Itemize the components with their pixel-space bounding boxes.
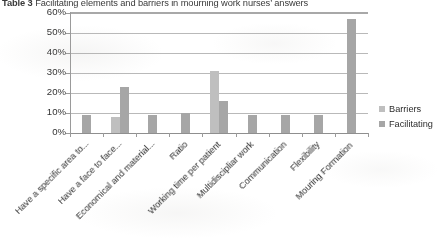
bar-facilitating bbox=[82, 115, 91, 133]
bar-barriers bbox=[210, 71, 219, 133]
legend-item[interactable]: Facilitating bbox=[379, 116, 443, 131]
x-axis-category-labels: Have a specific area to...Have a face to… bbox=[0, 133, 443, 242]
legend-label: Facilitating bbox=[389, 119, 433, 129]
bar-series-container bbox=[70, 13, 368, 133]
bar-facilitating bbox=[248, 115, 257, 133]
y-tick-label-60: 60% bbox=[14, 6, 66, 17]
legend-item[interactable]: Barriers bbox=[379, 101, 443, 116]
bar-facilitating bbox=[314, 115, 323, 133]
bar-barriers bbox=[111, 117, 120, 133]
bar-chart: 0%10%20%30%40%50%60% Have a specific are… bbox=[0, 0, 443, 242]
legend-swatch-icon bbox=[379, 106, 385, 112]
bar-group bbox=[136, 13, 169, 133]
y-tick-label-10: 10% bbox=[14, 106, 66, 117]
bar-facilitating bbox=[219, 101, 228, 133]
y-tick-label-40: 40% bbox=[14, 46, 66, 57]
bar-group bbox=[302, 13, 335, 133]
bar-group bbox=[103, 13, 136, 133]
bar-facilitating bbox=[181, 113, 190, 133]
bar-facilitating bbox=[347, 19, 356, 133]
y-tick-label-20: 20% bbox=[14, 86, 66, 97]
legend-label: Barriers bbox=[389, 104, 421, 114]
chart-legend: BarriersFacilitating bbox=[379, 101, 443, 131]
bar-group bbox=[236, 13, 269, 133]
bar-group bbox=[169, 13, 202, 133]
y-tick-label-30: 30% bbox=[14, 66, 66, 77]
bar-facilitating bbox=[281, 115, 290, 133]
bar-facilitating bbox=[148, 115, 157, 133]
legend-swatch-icon bbox=[379, 121, 385, 127]
bar-facilitating bbox=[120, 87, 129, 133]
bar-group bbox=[70, 13, 103, 133]
bar-group bbox=[269, 13, 302, 133]
bar-group bbox=[202, 13, 235, 133]
y-tick-label-50: 50% bbox=[14, 26, 66, 37]
bar-group bbox=[335, 13, 368, 133]
y-axis-tick-labels: 0%10%20%30%40%50%60% bbox=[14, 0, 66, 146]
